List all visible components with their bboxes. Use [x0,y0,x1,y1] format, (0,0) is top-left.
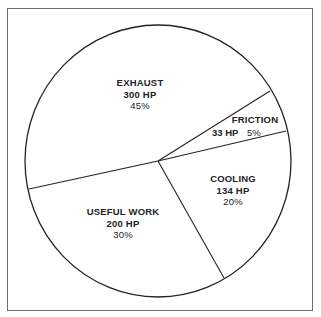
slice-label-useful-work: USEFUL WORK 200 HP 30% [87,206,160,241]
slice-value-friction: 33 HP [212,127,238,139]
slice-value: 33 HP [212,127,238,138]
slice-label-cooling: COOLING 134 HP 20% [210,173,256,208]
slice-value: 200 HP [87,218,160,230]
slice-percent: 30% [87,229,160,241]
slice-value: 300 HP [117,89,164,101]
slice-name: USEFUL WORK [87,206,160,218]
slice-name: COOLING [210,173,256,185]
slice-percent: 20% [210,196,256,208]
slice-percent-friction: 5% [247,127,261,139]
slice-name: EXHAUST [117,77,164,89]
slice-label-friction: FRICTION [232,114,278,126]
pie-chart [0,0,321,317]
slice-percent: 5% [247,127,261,138]
slice-name: FRICTION [232,114,278,126]
slice-value: 134 HP [210,185,256,197]
slice-label-exhaust: EXHAUST 300 HP 45% [117,77,164,112]
slice-percent: 45% [117,100,164,112]
